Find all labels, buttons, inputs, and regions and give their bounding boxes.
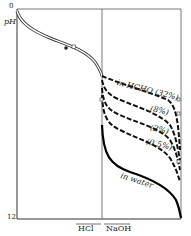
acid-branch-curve bbox=[17, 11, 102, 76]
y-axis-label: pH bbox=[4, 17, 16, 26]
naoh-label: NaOH bbox=[106, 224, 131, 233]
y-tick-12: 12 bbox=[7, 213, 16, 221]
hcl-label: HCl bbox=[78, 224, 94, 233]
chart-canvas bbox=[0, 0, 191, 236]
y-tick-0: 0 bbox=[9, 2, 13, 10]
